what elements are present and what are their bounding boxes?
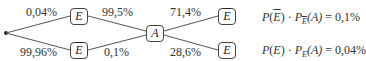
formula-top-value: 0,1%: [335, 10, 360, 24]
node-Ebar-bottom: E: [70, 42, 88, 59]
node-E-right-bottom: E: [218, 42, 236, 59]
formula-bottom: P(E) · PE(A) = 0,04%: [262, 44, 366, 61]
formula-top: P(E) · PE(A) = 0,1%: [262, 11, 360, 28]
prob-A-top: 71,4%: [170, 6, 201, 18]
prob-root-bottom: 99,96%: [20, 46, 57, 58]
prob-bottom-to-A: 0,1%: [104, 46, 129, 58]
node-A: A: [146, 25, 164, 42]
prob-root-top: 0,04%: [26, 6, 57, 18]
node-E-top: E: [70, 8, 88, 25]
prob-A-bottom: 28,6%: [170, 46, 201, 58]
node-Ebar-right-top: E: [218, 8, 236, 25]
formula-bottom-value: 0,04%: [335, 43, 366, 57]
prob-top-to-A: 99,5%: [102, 6, 133, 18]
